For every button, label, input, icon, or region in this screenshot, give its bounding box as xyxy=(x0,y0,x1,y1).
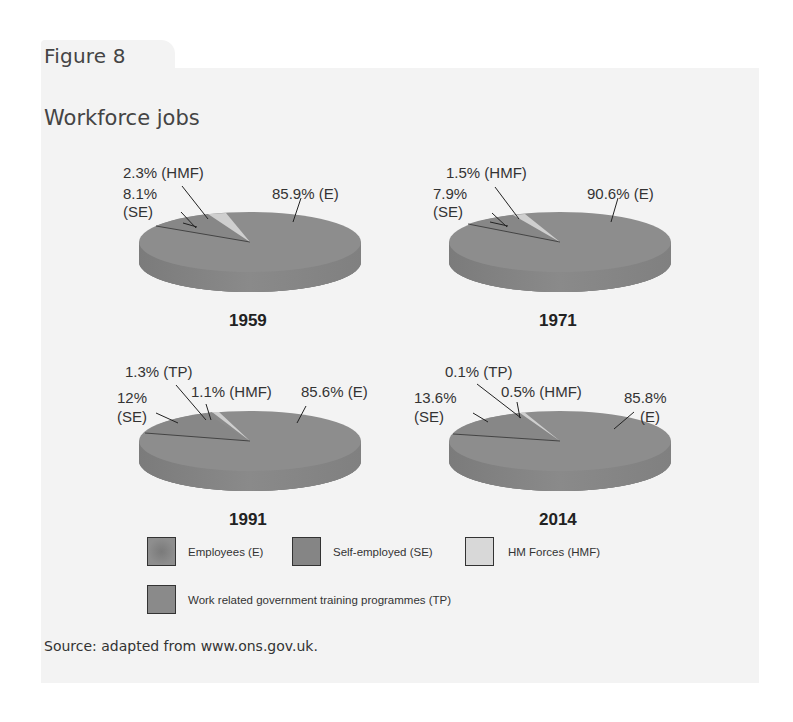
pie-1959: 2.3% (HMF) 8.1% (SE) 85.9% (E) 1959 xyxy=(123,164,361,330)
legend-swatch-hm-forces xyxy=(465,537,494,566)
legend-item-training: Work related government training program… xyxy=(147,585,451,614)
legend-swatch-employees xyxy=(147,537,176,566)
label-1971-se-key: (SE) xyxy=(433,203,463,220)
label-1971-hmf: 1.5% (HMF) xyxy=(446,164,527,181)
label-1959-e: 85.9% (E) xyxy=(272,185,339,202)
year-2014: 2014 xyxy=(539,510,577,529)
year-1991: 1991 xyxy=(229,510,267,529)
label-1959-se-key: (SE) xyxy=(123,203,153,220)
legend-item-hm-forces: HM Forces (HMF) xyxy=(465,537,600,566)
pie-1991: 1.3% (TP) 1.1% (HMF) 12% (SE) 85.6% (E) … xyxy=(117,363,368,529)
legend-swatch-training xyxy=(147,585,176,614)
label-1959-se-pct: 8.1% xyxy=(123,185,157,202)
label-2014-se-pct: 13.6% xyxy=(414,389,457,406)
legend-item-self-employed: Self-employed (SE) xyxy=(292,537,433,566)
label-1991-e: 85.6% (E) xyxy=(301,383,368,400)
pie-2014: 0.1% (TP) 0.5% (HMF) 13.6% (SE) 85.8% (E… xyxy=(414,363,671,529)
year-1959: 1959 xyxy=(229,311,267,330)
label-2014-tp: 0.1% (TP) xyxy=(445,363,513,380)
label-2014-e-pct: 85.8% xyxy=(624,389,667,406)
legend-swatch-self-employed xyxy=(292,537,321,566)
legend-label-training: Work related government training program… xyxy=(188,594,451,606)
legend-label-employees: Employees (E) xyxy=(188,546,263,558)
label-2014-hmf: 0.5% (HMF) xyxy=(501,383,582,400)
legend-label-hm-forces: HM Forces (HMF) xyxy=(508,546,600,558)
label-1959-hmf: 2.3% (HMF) xyxy=(123,164,204,181)
year-1971: 1971 xyxy=(539,311,577,330)
pie-1971: 1.5% (HMF) 7.9% (SE) 90.6% (E) 1971 xyxy=(433,164,671,330)
legend-label-self-employed: Self-employed (SE) xyxy=(333,546,433,558)
label-2014-se-key: (SE) xyxy=(414,408,444,425)
label-1991-se-pct: 12% xyxy=(117,389,147,406)
label-2014-e-key: (E) xyxy=(640,408,660,425)
label-1991-se-key: (SE) xyxy=(117,408,147,425)
label-1971-se-pct: 7.9% xyxy=(433,185,467,202)
label-1971-e: 90.6% (E) xyxy=(587,185,654,202)
label-1991-hmf: 1.1% (HMF) xyxy=(191,383,272,400)
label-1991-tp: 1.3% (TP) xyxy=(125,363,193,380)
legend-item-employees: Employees (E) xyxy=(147,537,263,566)
source-note: Source: adapted from www.ons.gov.uk. xyxy=(44,638,318,654)
